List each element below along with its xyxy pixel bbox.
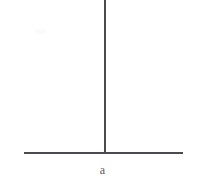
scan-smudge-artifact bbox=[34, 29, 47, 34]
baseline-label: a bbox=[0, 163, 205, 177]
figure-canvas: a bbox=[0, 0, 205, 196]
horizontal-baseline bbox=[24, 152, 183, 154]
vertical-line bbox=[104, 0, 106, 153]
